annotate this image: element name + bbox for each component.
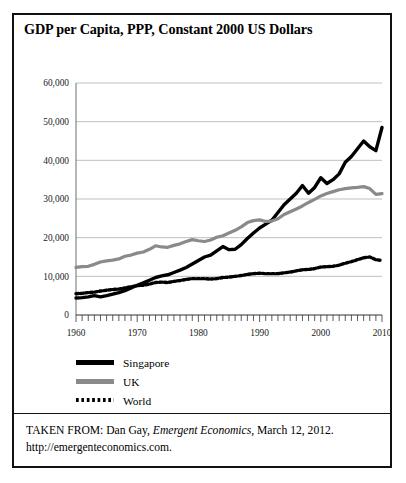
figure-container: GDP per Capita, PPP, Constant 2000 US Do… [12,13,392,468]
legend-item-singapore: Singapore [76,353,326,372]
y-axis-tick-label: 20,000 [43,233,69,243]
chart-legend: Singapore UK World [76,353,326,410]
page-title: GDP per Capita, PPP, Constant 2000 US Do… [24,21,312,38]
source-suffix: , March 12, 2012. [251,424,333,437]
legend-swatch-singapore [76,360,114,364]
x-axis-tick-label: 2000 [311,328,330,338]
legend-swatch-uk [76,379,114,383]
x-axis-tick-label: 1980 [189,328,208,338]
source-note: TAKEN FROM: Dan Gay, Emergent Economics,… [14,413,390,456]
y-axis-tick-label: 50,000 [43,117,69,127]
series-line-singapore [76,127,382,298]
legend-swatch-world [76,398,114,402]
legend-item-uk: UK [76,372,326,391]
y-axis-tick-label: 30,000 [43,194,69,204]
legend-label-singapore: Singapore [123,357,169,369]
legend-item-world: World [76,391,326,410]
source-publication: Emergent Economics [153,424,251,437]
source-citation-line: TAKEN FROM: Dan Gay, Emergent Economics,… [26,423,378,440]
y-axis-tick-label: 40,000 [43,156,69,166]
y-axis-tick-label: 60,000 [43,78,69,88]
series-line-world [76,257,382,294]
source-url: http://emergenteconomics.com. [26,440,378,457]
x-axis-tick-label: 1960 [67,328,86,338]
legend-label-uk: UK [123,376,139,388]
y-axis-tick-label: 10,000 [43,272,69,282]
chart-plot-area: 010,00020,00030,00040,00050,00060,000196… [14,45,390,345]
legend-label-world: World [123,395,151,407]
x-axis-tick-label: 1990 [250,328,269,338]
source-prefix: TAKEN FROM: Dan Gay, [26,424,150,437]
line-chart: 010,00020,00030,00040,00050,00060,000196… [14,45,390,345]
x-axis-tick-label: 2010 [373,328,390,338]
x-axis-tick-label: 1970 [128,328,147,338]
y-axis-tick-label: 0 [64,310,69,320]
